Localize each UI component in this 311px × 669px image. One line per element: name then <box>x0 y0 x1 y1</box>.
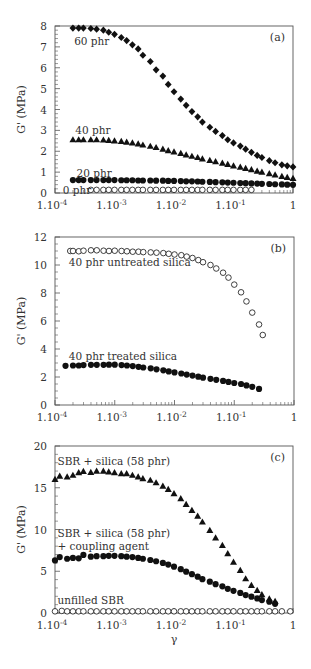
y-tick-label: 4 <box>40 343 47 355</box>
series-annotation: unfilled SBR <box>57 594 124 606</box>
y-tick-label: 6 <box>40 62 47 74</box>
panel-b: 0246810121.10-41.10-31.10-21.10-11G' (MP… <box>15 231 297 423</box>
panel-label: (a) <box>270 31 285 44</box>
x-tick-label: 1 <box>291 411 298 423</box>
panel-label: (c) <box>270 451 285 464</box>
x-tick-label: 1.10-2 <box>156 618 187 631</box>
x-tick-label: 1.10-4 <box>37 198 68 211</box>
y-tick-label: 5 <box>40 565 47 577</box>
y-axis-label: G' (MPa) <box>15 297 28 346</box>
series-annotation: 40 phr treated silica <box>69 350 177 362</box>
y-tick-label: 0 <box>40 607 47 619</box>
series-40-phr-treated-silica <box>62 362 262 392</box>
y-tick-label: 0 <box>40 399 47 411</box>
y-tick-label: 20 <box>34 440 47 452</box>
y-tick-label: 6 <box>40 315 47 327</box>
x-tick-label: 1.10-2 <box>156 410 187 423</box>
panel-c: 051015201.10-41.10-31.10-21.10-11G' (MPa… <box>15 440 296 646</box>
series-annotation: 40 phr <box>75 124 111 136</box>
panel-a: 0123456781.10-41.10-31.10-21.10-11G' (MP… <box>15 20 297 211</box>
series-annotation: SBR + silica (58 phr) <box>57 527 170 539</box>
x-tick-label: 1 <box>290 199 297 211</box>
y-tick-label: 2 <box>40 145 47 157</box>
y-tick-label: 1 <box>40 166 47 178</box>
y-tick-label: 4 <box>40 104 47 116</box>
y-tick-label: 3 <box>40 124 47 136</box>
series-unfilled-sbr <box>52 608 293 614</box>
x-axis-label: γ <box>171 633 178 646</box>
y-tick-label: 5 <box>40 83 47 95</box>
x-tick-label: 1.10-4 <box>37 618 68 631</box>
figure-storage-modulus-vs-strain: 0123456781.10-41.10-31.10-21.10-11G' (MP… <box>0 0 311 669</box>
y-tick-label: 7 <box>40 41 47 53</box>
x-tick-label: 1.10-3 <box>96 198 127 211</box>
x-tick-label: 1.10-1 <box>215 618 246 631</box>
x-tick-label: 1.10-1 <box>216 410 247 423</box>
x-tick-label: 1.10-3 <box>96 410 127 423</box>
series-annotation: 0 phr <box>63 184 93 196</box>
x-tick-label: 1.10-2 <box>156 198 187 211</box>
series-annotation: + coupling agent <box>57 540 149 552</box>
panel-label: (b) <box>270 242 286 255</box>
y-tick-label: 10 <box>34 259 47 271</box>
series-annotation: 20 phr <box>77 167 113 179</box>
x-tick-label: 1.10-4 <box>37 410 68 423</box>
y-axis-label: G' (MPa) <box>15 505 28 554</box>
y-tick-label: 0 <box>40 187 47 199</box>
x-tick-label: 1.10-1 <box>215 198 246 211</box>
y-axis-label: G' (MPa) <box>15 85 28 134</box>
series-annotation: 40 phr untreated silica <box>69 256 191 268</box>
x-tick-label: 1 <box>290 619 297 631</box>
y-tick-label: 10 <box>34 524 47 536</box>
series-annotation: 60 phr <box>74 35 110 47</box>
y-tick-label: 2 <box>40 371 47 383</box>
series-annotation: SBR + silica (58 phr) <box>57 455 170 467</box>
y-tick-label: 15 <box>34 482 47 494</box>
y-tick-label: 8 <box>40 20 47 32</box>
y-tick-label: 8 <box>40 287 47 299</box>
y-tick-label: 12 <box>34 231 47 243</box>
x-tick-label: 1.10-3 <box>96 618 127 631</box>
